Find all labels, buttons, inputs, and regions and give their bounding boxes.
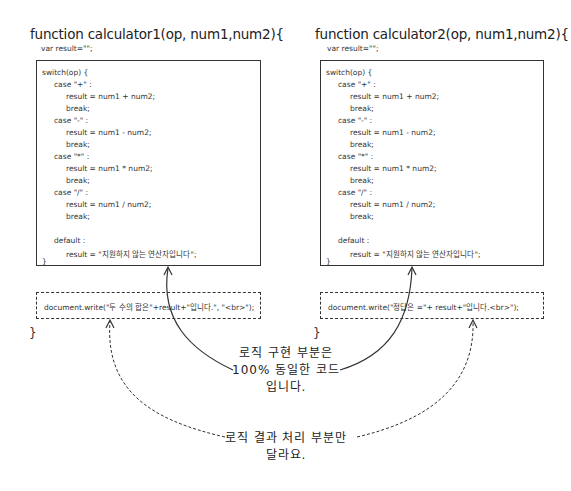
caption-line: 로직 구현 부분은 (186, 345, 386, 362)
caption-line: 입니다. (186, 379, 386, 396)
caption-different-output: 로직 결과 처리 부분만 달라요. (186, 430, 386, 464)
caption-line: 달라요. (186, 447, 386, 464)
caption-line: 100% 동일한 코드 (186, 362, 386, 379)
connector-arrows (0, 0, 571, 491)
caption-line: 로직 결과 처리 부분만 (186, 430, 386, 447)
caption-same-logic: 로직 구현 부분은 100% 동일한 코드 입니다. (186, 345, 386, 396)
